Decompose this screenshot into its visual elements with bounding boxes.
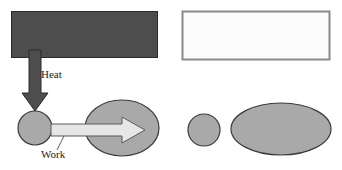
small-body-before	[18, 111, 52, 145]
diagram-canvas: Heat Work	[0, 0, 342, 170]
small-body-after	[188, 114, 220, 146]
thermodynamics-diagram: Heat Work	[0, 0, 342, 170]
heat-label: Heat	[41, 68, 62, 80]
heat-arrow-down	[22, 50, 48, 111]
cold-reservoir-rectangle	[183, 12, 330, 60]
large-body-after	[231, 103, 331, 155]
work-label: Work	[41, 148, 66, 160]
